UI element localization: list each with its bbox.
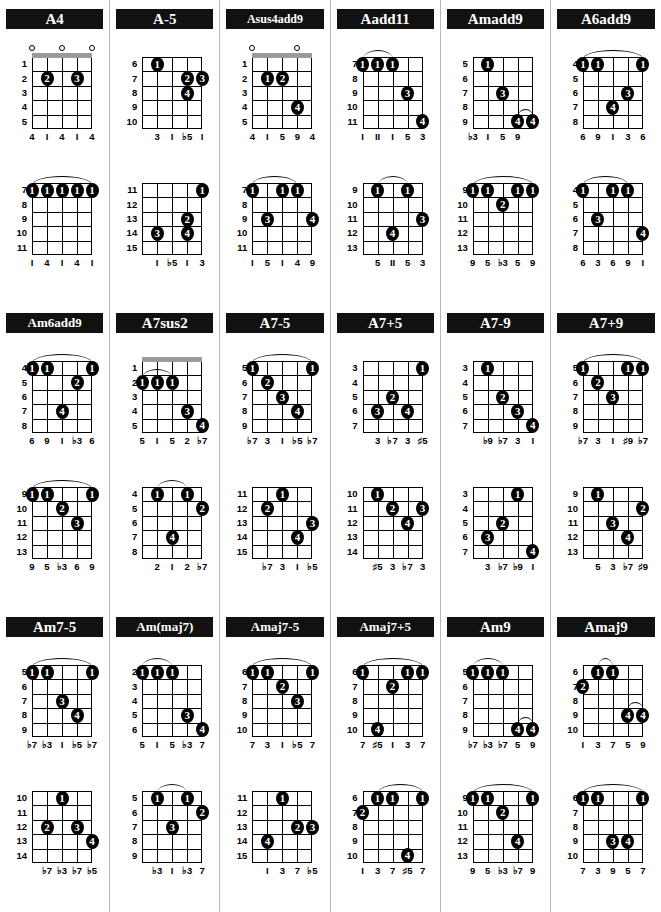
interval-label: 3 bbox=[200, 257, 205, 269]
fretboard: 11124 bbox=[473, 791, 533, 863]
fret-number: 13 bbox=[237, 822, 248, 832]
fret-line bbox=[583, 86, 643, 87]
finger-dot: 4 bbox=[71, 708, 84, 723]
fret-number: 3 bbox=[22, 88, 27, 98]
fret-number: 8 bbox=[132, 547, 137, 557]
chord-cell[interactable]: Amaj7+5678910111247♯5I3767891011124I37♯5… bbox=[331, 608, 441, 912]
interval-label-row: 95♭369 bbox=[32, 561, 92, 574]
fret-number: 8 bbox=[462, 710, 467, 720]
fret-line bbox=[473, 834, 533, 835]
fret-number: 8 bbox=[352, 822, 357, 832]
interval-label: II bbox=[375, 131, 380, 143]
chord-cell[interactable]: Amaj967891011244I37596789101113473957 bbox=[551, 608, 661, 912]
interval-label: 5 bbox=[625, 739, 630, 751]
finger-dot: 1 bbox=[496, 665, 509, 680]
interval-label: ♭5 bbox=[292, 435, 302, 447]
chord-cell[interactable]: Am(maj7)23456111345I5♭37567891123♭3I♭37 bbox=[110, 608, 220, 912]
barre-icon bbox=[583, 50, 643, 59]
finger-dot: 3 bbox=[306, 820, 319, 835]
fret-line bbox=[142, 516, 202, 517]
nut-icon bbox=[32, 53, 92, 58]
fret-line bbox=[252, 708, 312, 709]
chord-diagram: 456781112469I♭36 bbox=[0, 339, 110, 457]
chord-cell[interactable]: A7+95678911123♭73I♯9♭7910111213123453♭7♯… bbox=[551, 304, 661, 608]
fret-line bbox=[583, 212, 643, 213]
chord-cell[interactable]: A-567891012343I♭5I11121314151234I♭5I3 bbox=[110, 0, 220, 304]
fret-line bbox=[252, 530, 312, 531]
open-string-icon bbox=[294, 45, 300, 51]
chord-diagram: 678910111247♯5I37 bbox=[331, 643, 441, 761]
chord-diagram: 91011121311345II53 bbox=[331, 161, 441, 279]
fret-number-column: 910111213 bbox=[2, 487, 29, 559]
interval-label: ♭3 bbox=[57, 561, 67, 573]
interval-label: I bbox=[156, 257, 159, 269]
finger-dot: 1 bbox=[356, 57, 369, 72]
chord-name-title: Am7-5 bbox=[6, 617, 103, 637]
chord-cell[interactable]: Am7-55678911134♭7♭3I♭5♭710111213141234♭7… bbox=[0, 608, 110, 912]
interval-label: 3 bbox=[390, 561, 395, 573]
chord-cell[interactable]: Am6add9456781112469I♭369101112131112395♭… bbox=[0, 304, 110, 608]
chord-cell[interactable]: A7+53456712343♭73♯510111213141234♯53♭73 bbox=[331, 304, 441, 608]
finger-dot: 1 bbox=[26, 361, 39, 376]
chord-name-title: Amaj7-5 bbox=[226, 617, 323, 637]
fret-number: 5 bbox=[132, 710, 137, 720]
chord-cell[interactable]: Asus4add9123451244I594789101111134I5I49 bbox=[220, 0, 330, 304]
fret-number: 10 bbox=[567, 851, 578, 861]
chord-diagram: 5678911234♭73I♭5♭7 bbox=[220, 339, 330, 457]
chord-cell[interactable]: Amadd9567891344♭3I599101112131111295♭359 bbox=[441, 0, 551, 304]
fret-number: 10 bbox=[457, 808, 468, 818]
fret-number: 5 bbox=[462, 392, 467, 402]
finger-dot: 3 bbox=[306, 516, 319, 531]
fret-number: 3 bbox=[132, 392, 137, 402]
interval-label: I bbox=[582, 739, 585, 751]
fret-number: 11 bbox=[568, 518, 578, 528]
interval-label-row: 4I4I4 bbox=[32, 131, 92, 144]
fret-line bbox=[363, 834, 423, 835]
chord-cell[interactable]: Amaj7-56789101112373I♭5711121314151234I3… bbox=[220, 608, 330, 912]
chord-cell[interactable]: Am95678911144♭7♭3♭7599101112131112495♭3♭… bbox=[441, 608, 551, 912]
barre-icon bbox=[583, 784, 643, 793]
finger-dot: 2 bbox=[196, 805, 209, 820]
chord-diagram: 6789101112373I♭57 bbox=[220, 643, 330, 761]
finger-dot: 4 bbox=[636, 226, 649, 241]
chord-cell[interactable]: A412345234I4I4789101111111I4I4I bbox=[0, 0, 110, 304]
interval-label: I bbox=[612, 131, 615, 143]
chord-diagram: 11121314151234♭73I♭5 bbox=[220, 465, 330, 583]
fretboard: 23 bbox=[32, 57, 92, 129]
finger-dot: 3 bbox=[291, 694, 304, 709]
interval-label-row: I37♭5 bbox=[252, 865, 312, 878]
fret-number: 12 bbox=[347, 228, 358, 238]
interval-label: 3 bbox=[265, 739, 270, 751]
fret-number: 7 bbox=[462, 547, 467, 557]
chord-cell[interactable]: A7sus212345111345I52♭74567811242I2♭7 bbox=[110, 304, 220, 608]
interval-label: 6 bbox=[640, 131, 645, 143]
interval-label: ♭5 bbox=[167, 257, 177, 269]
finger-dot: 1 bbox=[41, 487, 54, 502]
fret-line bbox=[583, 694, 643, 695]
interval-label: 3 bbox=[280, 865, 285, 877]
string-line bbox=[62, 57, 63, 129]
finger-dot: 2 bbox=[181, 212, 194, 227]
chord-cell[interactable]: A6add9456781113469I3645678111346369I bbox=[551, 0, 661, 304]
chord-name-title: A7+9 bbox=[557, 313, 655, 333]
interval-label: ♭5 bbox=[72, 739, 82, 751]
fret-number: 5 bbox=[573, 74, 578, 84]
chord-diagram: 567891344♭3I59 bbox=[441, 35, 551, 153]
chord-cell[interactable]: A7-55678911234♭73I♭5♭711121314151234♭73I… bbox=[220, 304, 330, 608]
fret-line bbox=[142, 501, 202, 502]
interval-label: I bbox=[531, 435, 534, 447]
chord-cell[interactable]: A7-9345671234♭9♭73I3456712343♭7♭9I bbox=[441, 304, 551, 608]
interval-label: 3 bbox=[405, 739, 410, 751]
interval-label: I bbox=[61, 257, 64, 269]
finger-dot: 1 bbox=[261, 665, 274, 680]
fret-number: 10 bbox=[567, 725, 578, 735]
fret-number: 11 bbox=[348, 214, 358, 224]
chord-diagram: 12345234I4I4 bbox=[0, 35, 110, 153]
finger-dot: 2 bbox=[496, 390, 509, 405]
interval-label: 7 bbox=[640, 865, 645, 877]
interval-label: 7 bbox=[200, 739, 205, 751]
interval-label: 9 bbox=[470, 257, 475, 269]
fret-number: 7 bbox=[352, 421, 357, 431]
fret-number-column: 678910 bbox=[333, 791, 360, 863]
chord-cell[interactable]: Aadd11789101111134IIII5391011121311345II… bbox=[331, 0, 441, 304]
